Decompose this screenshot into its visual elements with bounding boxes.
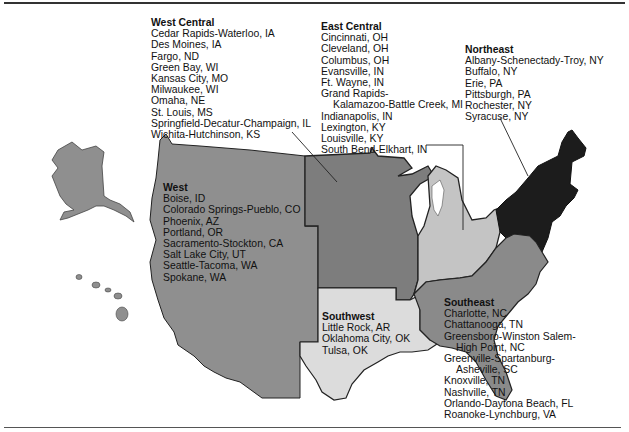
alaska-shape (52, 142, 134, 222)
region-title: West Central (151, 17, 311, 28)
region-northeast-legend: Northeast Albany-Schenectady-Troy, NY Bu… (465, 44, 604, 122)
city-label: Erie, PA (465, 78, 604, 89)
city-label: Little Rock, AR (322, 322, 410, 333)
city-label: Roanoke-Lynchburg, VA (444, 409, 576, 420)
region-northeast-shape (496, 130, 586, 252)
city-label: Kansas City, MO (151, 73, 311, 84)
city-label: High Point, NC (444, 342, 576, 353)
city-label: Charlotte, NC (444, 308, 576, 319)
city-label: Oklahoma City, OK (322, 333, 410, 344)
city-label: St. Louis, MS (151, 107, 311, 118)
region-title: Southeast (444, 297, 576, 308)
region-west-legend: West Boise, ID Colorado Springs-Pueblo, … (163, 182, 300, 283)
city-label: South Bend-Elkhart, IN (321, 144, 463, 155)
hawaii-island-shape (76, 275, 82, 280)
hawaii-island-shape (105, 288, 111, 292)
region-southeast-legend: Southeast Charlotte, NC Chattanooga, TN … (444, 297, 576, 420)
city-label: Boise, ID (163, 193, 300, 204)
city-label: Grand Rapids- (321, 88, 463, 99)
city-label: Cincinnati, OH (321, 32, 463, 43)
hawaii-island-shape (92, 282, 100, 288)
city-label: Kalamazoo-Battle Creek, MI (321, 99, 463, 110)
city-label: Columbus, OH (321, 55, 463, 66)
region-southwest-legend: Southwest Little Rock, AR Oklahoma City,… (322, 311, 410, 356)
city-label: Omaha, NE (151, 95, 311, 106)
region-title: West (163, 182, 300, 193)
city-label: Seattle-Tacoma, WA (163, 260, 300, 271)
city-label: Portland, OR (163, 227, 300, 238)
city-label: Green Bay, WI (151, 62, 311, 73)
city-label: Albany-Schenectady-Troy, NY (465, 55, 604, 66)
region-title: Northeast (465, 44, 604, 55)
city-label: Nashville, TN (444, 387, 576, 398)
city-label: Milwaukee, WI (151, 84, 311, 95)
city-label: Rochester, NY (465, 100, 604, 111)
region-title: Southwest (322, 311, 410, 322)
region-title: East Central (321, 21, 463, 32)
city-label: Knoxville, TN (444, 375, 576, 386)
region-west-central-shape (305, 148, 434, 300)
city-label: Colorado Springs-Pueblo, CO (163, 204, 300, 215)
city-label: Greensboro-Winston Salem- (444, 331, 576, 342)
city-label: Orlando-Daytona Beach, FL (444, 398, 576, 409)
city-label: Springfield-Decatur-Champaign, IL (151, 118, 311, 129)
city-label: Evansville, IN (321, 66, 463, 77)
region-east-central-legend: East Central Cincinnati, OH Cleveland, O… (321, 21, 463, 155)
hawaii-island-shape (116, 307, 128, 321)
region-west-central-legend: West Central Cedar Rapids-Waterloo, IA D… (151, 17, 311, 140)
hawaii-island-shape (114, 293, 122, 299)
city-label: Cleveland, OH (321, 43, 463, 54)
city-label: Tulsa, OK (322, 345, 410, 356)
city-label: Louisville, KY (321, 133, 463, 144)
city-label: Pittsburgh, PA (465, 89, 604, 100)
city-label: Sacramento-Stockton, CA (163, 238, 300, 249)
city-label: Indianapolis, IN (321, 111, 463, 122)
city-label: Des Moines, IA (151, 39, 311, 50)
city-label: Ft. Wayne, IN (321, 77, 463, 88)
city-label: Spokane, WA (163, 272, 300, 283)
city-label: Fargo, ND (151, 51, 311, 62)
city-label: Cedar Rapids-Waterloo, IA (151, 28, 311, 39)
city-label: Wichita-Hutchinson, KS (151, 129, 311, 140)
city-label: Buffalo, NY (465, 66, 604, 77)
city-label: Salt Lake City, UT (163, 249, 300, 260)
bottom-rule (4, 427, 621, 428)
city-label: Greenville-Spartanburg- (444, 353, 576, 364)
city-label: Phoenix, AZ (163, 216, 300, 227)
city-label: Syracuse, NY (465, 111, 604, 122)
city-label: Asheville, SC (444, 364, 576, 375)
city-label: Lexington, KY (321, 122, 463, 133)
leader-line-northeast (500, 118, 528, 176)
city-label: Chattanooga, TN (444, 319, 576, 330)
